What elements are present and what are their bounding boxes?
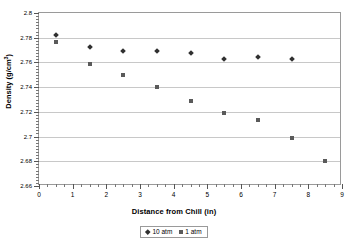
- y-tick-label: 2.78: [20, 35, 32, 41]
- x-tick-label: 1: [71, 191, 75, 198]
- x-tick: [39, 184, 40, 189]
- scatter-chart: 2.662.682.72.722.742.762.782.8 012345678…: [0, 0, 348, 245]
- x-minor-tick: [191, 184, 192, 187]
- x-tick: [241, 184, 242, 189]
- y-minor-tick: [36, 140, 39, 141]
- x-tick-label: 3: [138, 191, 142, 198]
- y-minor-tick: [36, 158, 39, 159]
- x-tick-label: 4: [172, 191, 176, 198]
- data-point: [120, 48, 126, 54]
- data-point: [256, 118, 260, 122]
- y-minor-tick: [36, 164, 39, 165]
- x-minor-tick: [90, 184, 91, 187]
- gridline: [39, 112, 340, 113]
- x-minor-tick: [233, 184, 234, 187]
- legend-item-1-atm: 1 atm: [179, 228, 201, 236]
- data-point: [255, 55, 261, 61]
- y-minor-tick: [36, 53, 39, 54]
- y-minor-tick: [36, 41, 39, 42]
- y-axis-title: Density (g/cm3): [3, 21, 14, 141]
- y-minor-tick: [36, 103, 39, 104]
- data-point: [289, 56, 295, 62]
- y-tick: [34, 112, 39, 113]
- diamond-marker-icon: [146, 230, 151, 235]
- y-minor-tick: [36, 90, 39, 91]
- x-minor-tick: [165, 184, 166, 187]
- data-point: [54, 40, 58, 44]
- y-minor-tick: [36, 28, 39, 29]
- y-minor-tick: [36, 72, 39, 73]
- y-tick: [34, 38, 39, 39]
- y-minor-tick: [36, 59, 39, 60]
- gridline: [39, 38, 340, 39]
- y-minor-tick: [36, 84, 39, 85]
- x-minor-tick: [199, 184, 200, 187]
- y-minor-tick: [36, 171, 39, 172]
- x-minor-tick: [98, 184, 99, 187]
- square-marker-icon: [179, 230, 183, 234]
- x-minor-tick: [115, 184, 116, 187]
- y-tick-label: 2.74: [20, 84, 32, 90]
- x-tick-label: 6: [239, 191, 243, 198]
- legend-item-10-atm: 10 atm: [146, 228, 172, 236]
- y-minor-tick: [36, 124, 39, 125]
- x-tick: [140, 184, 141, 189]
- legend-label-1-atm: 1 atm: [185, 228, 201, 236]
- x-minor-tick: [224, 184, 225, 187]
- x-axis-title: Distance from Chill (in): [0, 207, 348, 216]
- x-minor-tick: [258, 184, 259, 187]
- y-tick-label: 2.8: [24, 10, 32, 16]
- y-minor-tick: [36, 22, 39, 23]
- y-minor-tick: [36, 50, 39, 51]
- y-minor-tick: [36, 115, 39, 116]
- y-tick: [34, 13, 39, 14]
- y-minor-tick: [36, 177, 39, 178]
- y-minor-tick: [36, 106, 39, 107]
- data-point: [323, 159, 327, 163]
- data-point: [121, 73, 125, 77]
- x-minor-tick: [292, 184, 293, 187]
- data-point: [87, 44, 93, 50]
- y-tick: [34, 137, 39, 138]
- x-minor-tick: [266, 184, 267, 187]
- data-point: [53, 32, 59, 38]
- y-minor-tick: [36, 93, 39, 94]
- legend-box: 10 atm 1 atm: [140, 226, 207, 238]
- x-minor-tick: [157, 184, 158, 187]
- y-minor-tick: [36, 133, 39, 134]
- y-minor-tick: [36, 78, 39, 79]
- y-tick: [34, 87, 39, 88]
- x-tick: [207, 184, 208, 189]
- x-minor-tick: [317, 184, 318, 187]
- y-minor-tick: [36, 152, 39, 153]
- x-tick-label: 7: [273, 191, 277, 198]
- y-minor-tick: [36, 167, 39, 168]
- legend-label-10-atm: 10 atm: [152, 228, 172, 236]
- x-minor-tick: [47, 184, 48, 187]
- y-axis-title-exponent: 3: [3, 56, 9, 59]
- y-minor-tick: [36, 44, 39, 45]
- y-tick-label: 2.72: [20, 109, 32, 115]
- x-minor-tick: [216, 184, 217, 187]
- y-minor-tick: [36, 32, 39, 33]
- x-minor-tick: [325, 184, 326, 187]
- y-minor-tick: [36, 109, 39, 110]
- x-tick-label: 8: [307, 191, 311, 198]
- y-minor-tick: [36, 66, 39, 67]
- y-minor-tick: [36, 180, 39, 181]
- y-tick: [34, 161, 39, 162]
- x-tick-label: 9: [340, 191, 344, 198]
- y-minor-tick: [36, 146, 39, 147]
- y-tick-label: 2.68: [20, 158, 32, 164]
- y-minor-tick: [36, 47, 39, 48]
- y-axis-title-text: Density (g/cm: [4, 59, 13, 108]
- x-tick: [174, 184, 175, 189]
- gridline: [39, 87, 340, 88]
- plot-area: 2.662.682.72.722.742.762.782.8 012345678…: [38, 12, 341, 185]
- x-minor-tick: [148, 184, 149, 187]
- y-tick-label: 2.76: [20, 59, 32, 65]
- x-minor-tick: [64, 184, 65, 187]
- y-tick: [34, 62, 39, 63]
- x-minor-tick: [182, 184, 183, 187]
- y-minor-tick: [36, 25, 39, 26]
